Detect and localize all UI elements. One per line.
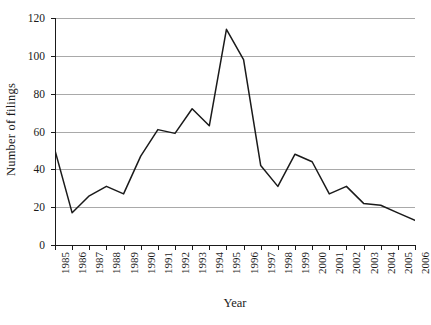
y-tick-label: 0 — [39, 239, 45, 251]
x-tick-mark — [175, 245, 176, 250]
x-tick-label: 1986 — [76, 252, 88, 274]
x-tick-label: 2006 — [419, 252, 431, 274]
x-tick-label: 1995 — [230, 252, 242, 274]
x-tick-mark — [415, 245, 416, 250]
y-tick-label: 120 — [28, 12, 45, 24]
x-tick-label: 1991 — [162, 252, 174, 274]
x-tick-mark — [364, 245, 365, 250]
data-series-line — [55, 18, 415, 245]
x-tick-mark — [89, 245, 90, 250]
x-tick-mark — [329, 245, 330, 250]
x-tick-label: 1989 — [128, 252, 140, 274]
x-tick-mark — [209, 245, 210, 250]
x-tick-mark — [398, 245, 399, 250]
x-tick-mark — [55, 245, 56, 250]
x-tick-label: 2005 — [402, 252, 414, 274]
x-tick-label: 1993 — [196, 252, 208, 274]
x-tick-label: 1996 — [248, 252, 260, 274]
x-axis-title: Year — [55, 296, 415, 311]
y-tick-label: 80 — [34, 88, 46, 100]
y-tick-label: 60 — [34, 126, 46, 138]
y-axis-tick-labels: 020406080100120 — [22, 18, 49, 245]
x-tick-mark — [124, 245, 125, 250]
y-axis-title-text: Number of filings — [4, 83, 19, 176]
x-tick-label: 1997 — [265, 252, 277, 274]
x-tick-label: 1985 — [59, 252, 71, 274]
x-tick-mark — [346, 245, 347, 250]
x-tick-mark — [192, 245, 193, 250]
figure-caption-cropped — [30, 317, 410, 325]
x-tick-label: 1988 — [110, 252, 122, 274]
y-tick-label: 20 — [34, 201, 46, 213]
x-axis-tick-labels: 1985198619871988198919901991199219931994… — [55, 252, 415, 294]
x-tick-label: 1990 — [145, 252, 157, 274]
x-tick-label: 1992 — [179, 252, 191, 274]
x-tick-label: 1987 — [93, 252, 105, 274]
plot-area — [55, 18, 415, 245]
y-tick-label: 100 — [28, 50, 45, 62]
x-axis-tick-marks — [55, 245, 415, 250]
x-tick-mark — [261, 245, 262, 250]
x-tick-label: 1998 — [282, 252, 294, 274]
x-tick-label: 2004 — [385, 252, 397, 274]
x-tick-mark — [312, 245, 313, 250]
x-tick-label: 2003 — [368, 252, 380, 274]
x-tick-label: 2001 — [333, 252, 345, 274]
x-tick-mark — [226, 245, 227, 250]
x-tick-mark — [141, 245, 142, 250]
x-tick-label: 1994 — [213, 252, 225, 274]
x-tick-label: 1999 — [299, 252, 311, 274]
x-tick-mark — [381, 245, 382, 250]
series-polyline — [55, 29, 415, 220]
x-tick-mark — [72, 245, 73, 250]
y-axis-title: Number of filings — [0, 0, 22, 258]
x-tick-mark — [158, 245, 159, 250]
y-tick-label: 40 — [34, 163, 46, 175]
x-tick-mark — [295, 245, 296, 250]
x-tick-label: 2002 — [350, 252, 362, 274]
x-tick-label: 2000 — [316, 252, 328, 274]
x-tick-mark — [106, 245, 107, 250]
x-tick-mark — [244, 245, 245, 250]
x-tick-mark — [278, 245, 279, 250]
